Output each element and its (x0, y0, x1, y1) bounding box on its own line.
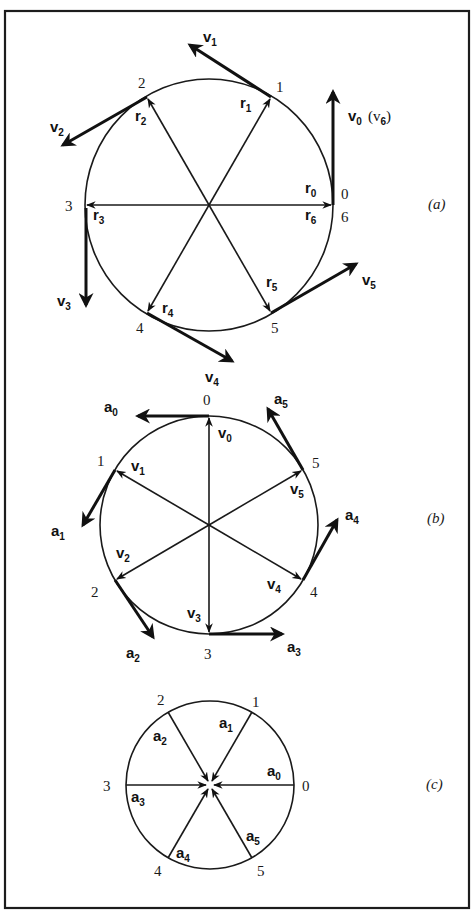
point-label-0: 0 (203, 392, 211, 408)
point-label-4: 4 (136, 320, 144, 336)
label-r1: r1 (240, 94, 252, 114)
point-label-6: 6 (341, 209, 349, 225)
label-a2: a2 (126, 644, 140, 664)
label-a1: a1 (51, 522, 65, 542)
label-a4: a4 (176, 844, 190, 864)
label-v5: v5 (362, 271, 376, 291)
label-a0: a0 (104, 398, 118, 418)
label-a1: a1 (219, 714, 233, 734)
tangent-vectors (83, 409, 337, 637)
radius-labels: a0 a1 a2 a3 a4 a5 (131, 714, 281, 864)
point-label-1: 1 (252, 694, 260, 710)
label-a5: a5 (246, 827, 260, 847)
point-label-5: 5 (271, 320, 279, 336)
point-label-1: 1 (276, 79, 284, 95)
vector-a1 (83, 470, 115, 525)
vector-a5 (212, 789, 252, 858)
label-v2: v2 (50, 118, 64, 138)
vector-r4 (148, 205, 209, 311)
point-label-5: 5 (312, 455, 320, 471)
point-label-2: 2 (91, 584, 99, 600)
panel-a: 0 1 2 3 4 5 6 r0 r1 r2 r3 r4 r5 r6 v0(v6… (50, 28, 446, 388)
label-a4: a4 (345, 506, 359, 526)
point-label-2: 2 (157, 692, 165, 708)
vector-a5 (268, 409, 303, 470)
label-r5: r5 (266, 273, 278, 293)
radius-vectors (117, 418, 301, 632)
vector-v2 (117, 525, 209, 579)
label-v1: v1 (131, 457, 145, 477)
velocity-acceleration-diagram: 0 1 2 3 4 5 6 r0 r1 r2 r3 r4 r5 r6 v0(v6… (0, 0, 475, 917)
label-v0-v6: v0(v6) (348, 107, 391, 127)
label-v3: v3 (57, 292, 71, 312)
vector-v1 (190, 45, 271, 97)
panel-label-b: (b) (427, 510, 445, 527)
point-label-2: 2 (138, 75, 146, 91)
label-a0: a0 (267, 762, 281, 782)
tangent-labels: v0(v6) v1 v2 v3 v4 v5 (50, 28, 391, 388)
label-r4: r4 (162, 299, 174, 319)
label-r3: r3 (93, 206, 105, 226)
point-label-5: 5 (257, 863, 265, 879)
label-a2: a2 (153, 727, 167, 747)
label-a5: a5 (274, 390, 288, 410)
radius-vectors (87, 99, 331, 311)
label-r0: r0 (305, 179, 317, 199)
point-label-4: 4 (154, 863, 162, 879)
vector-a2 (168, 712, 208, 781)
vector-v4 (209, 525, 301, 579)
panel-b: 0 1 2 3 4 5 v0 v1 v2 v3 v4 v5 a0 a1 a2 a… (51, 390, 445, 664)
label-v0: v0 (218, 424, 232, 444)
label-a3: a3 (131, 788, 145, 808)
point-label-3: 3 (204, 646, 212, 662)
vector-r1 (209, 99, 270, 205)
point-label-4: 4 (310, 584, 318, 600)
label-v4: v4 (267, 575, 281, 595)
vector-a4 (168, 789, 208, 858)
label-v4: v4 (205, 368, 219, 388)
label-r2: r2 (135, 107, 147, 127)
vector-a2 (115, 580, 153, 637)
panel-label-a: (a) (428, 196, 446, 213)
vector-v5 (209, 471, 301, 525)
vector-a4 (303, 520, 337, 580)
label-r6: r6 (305, 206, 317, 226)
panel-label-c: (c) (426, 776, 443, 793)
point-label-3: 3 (65, 198, 73, 214)
radius-labels: r0 r1 r2 r3 r4 r5 r6 (93, 94, 317, 319)
radius-vectors (126, 712, 294, 858)
point-label-3: 3 (103, 778, 111, 794)
vector-v5 (271, 264, 356, 313)
label-v2: v2 (116, 544, 130, 564)
point-label-0: 0 (302, 778, 310, 794)
point-label-0: 0 (341, 186, 349, 202)
label-a3: a3 (287, 638, 301, 658)
vector-v1 (117, 471, 209, 525)
label-v3: v3 (187, 604, 201, 624)
panel-c: 0 1 2 3 4 5 a0 a1 a2 a3 a4 a5 (c) (103, 692, 443, 879)
vector-r5 (209, 205, 270, 311)
figure-frame (5, 11, 469, 908)
label-v1: v1 (203, 28, 217, 48)
vector-v4 (147, 313, 232, 361)
point-label-1: 1 (97, 453, 105, 469)
vector-r2 (148, 99, 209, 205)
label-v5: v5 (290, 480, 304, 500)
